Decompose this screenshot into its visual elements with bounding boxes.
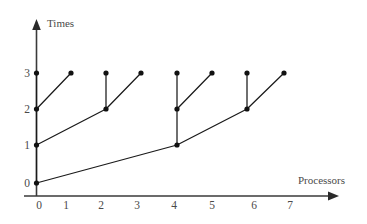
data-series-group: [37, 73, 285, 183]
x-tick-label-1: 1: [63, 199, 69, 211]
y-tick-label-3: 3: [24, 67, 30, 79]
x-tick-label-5: 5: [209, 199, 215, 211]
data-point: [103, 70, 108, 75]
data-point: [281, 70, 286, 75]
x-tick-label-0: 0: [36, 199, 42, 211]
x-tick-label-3: 3: [134, 199, 140, 211]
y-tick-label-2: 2: [24, 103, 30, 115]
data-point: [174, 142, 179, 147]
x-tick-labels: 0 1 2 3 4 5 6 7: [36, 199, 293, 211]
data-point: [138, 70, 143, 75]
data-point: [34, 142, 39, 147]
chart-canvas: 3 2 1 0 0 1 2 3 4 5 6 7 Times Processors: [0, 0, 367, 224]
data-point: [174, 70, 179, 75]
x-axis-title: Processors: [298, 174, 345, 186]
x-axis-arrowhead: [328, 192, 339, 201]
data-point: [68, 70, 73, 75]
y-tick-label-1: 1: [24, 139, 30, 151]
series-segment-4: [37, 73, 178, 183]
data-point: [34, 70, 39, 75]
x-tick-label-2: 2: [98, 199, 104, 211]
series-segment-1: [37, 73, 72, 109]
data-point: [34, 180, 39, 185]
data-point: [244, 70, 249, 75]
series-segment-2: [37, 73, 107, 145]
y-tick-labels: 3 2 1 0: [24, 67, 30, 189]
series-segment-6: [177, 73, 247, 145]
series-segment-3: [106, 73, 141, 109]
data-point: [244, 106, 249, 111]
y-axis-arrowhead: [32, 19, 41, 30]
data-point: [174, 106, 179, 111]
x-tick-label-7: 7: [287, 199, 293, 211]
data-markers-group: [34, 70, 287, 185]
y-axis-title: Times: [47, 17, 74, 29]
data-point: [34, 106, 39, 111]
figure-container: 3 2 1 0 0 1 2 3 4 5 6 7 Times Processors: [0, 0, 367, 224]
y-tick-label-0: 0: [24, 177, 30, 189]
data-point: [103, 106, 108, 111]
series-segment-5: [177, 73, 212, 109]
x-tick-label-4: 4: [171, 199, 177, 211]
data-point: [209, 70, 214, 75]
x-tick-label-6: 6: [251, 199, 257, 211]
series-segment-7: [247, 73, 284, 109]
